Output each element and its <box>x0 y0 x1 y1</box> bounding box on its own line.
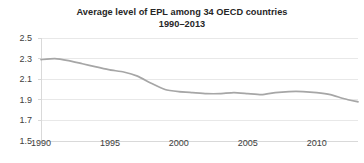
x-axis-tick-label: 2005 <box>238 138 258 148</box>
x-axis-tick-label: 2000 <box>169 138 189 148</box>
y-axis-tick-label: 1.9 <box>8 95 32 105</box>
series-line <box>41 59 358 102</box>
chart-container: Average level of EPL among 34 OECD count… <box>0 0 364 163</box>
y-axis-tick-labels: 2.52.32.11.91.71.5 <box>4 0 32 163</box>
plot-area: 2.52.32.11.91.71.5 19901995200020052010 <box>0 0 364 163</box>
x-axis-tick-label: 1990 <box>31 138 51 148</box>
y-axis-tick-label: 2.1 <box>8 74 32 84</box>
data-series <box>41 59 358 102</box>
x-axis-tick-label: 1995 <box>100 138 120 148</box>
y-axis-tick-label: 1.5 <box>8 136 32 146</box>
y-axis-tick-label: 2.3 <box>8 54 32 64</box>
y-axis-tick-label: 1.7 <box>8 115 32 125</box>
y-axis-tick-label: 2.5 <box>8 33 32 43</box>
gridlines <box>41 38 358 141</box>
x-axis-tick-label: 2010 <box>307 138 327 148</box>
